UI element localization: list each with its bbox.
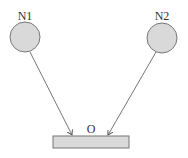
node-o: O xyxy=(53,122,129,148)
edge-n1-to-o xyxy=(30,52,72,135)
node-n1: N1 xyxy=(10,9,40,52)
node-n2-label: N2 xyxy=(155,9,170,23)
node-o-label: O xyxy=(87,122,96,136)
edge-n2-to-o xyxy=(108,52,156,135)
node-n1-label: N1 xyxy=(18,9,33,23)
diagram-canvas: N1 N2 O xyxy=(0,0,188,158)
node-n2: N2 xyxy=(147,9,177,53)
